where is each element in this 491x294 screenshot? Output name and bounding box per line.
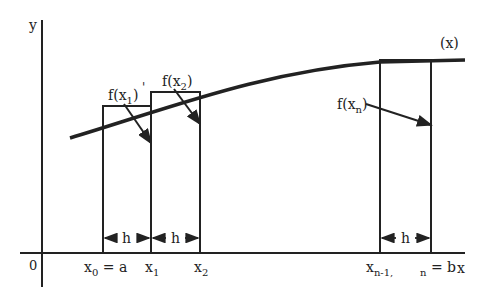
y-axis-label: y [28, 17, 37, 33]
svg-text:h: h [401, 230, 410, 246]
tick-x0: x0 = a [84, 259, 127, 278]
tick-x1: x1 [145, 259, 159, 278]
interval-h-n: h [382, 230, 429, 246]
interval-h-2: h [153, 230, 198, 246]
tick-xn: n = b [420, 259, 456, 278]
rectangle-2 [151, 92, 200, 253]
label-f-x1: f(x1) [108, 87, 138, 106]
arrow-f-x2 [174, 89, 200, 124]
arrow-f-xn [366, 104, 431, 125]
x-axis-label: x [457, 260, 465, 276]
stray-mark: ' [142, 81, 145, 95]
label-f-x2: f(x2) [162, 73, 192, 92]
svg-text:h: h [171, 230, 180, 246]
svg-text:h: h [122, 230, 131, 246]
tick-x2: x2 [194, 259, 208, 278]
arrow-f-x1 [124, 104, 151, 143]
interval-h-1: h [105, 230, 149, 246]
curve-label: (x) [440, 35, 459, 51]
integration-diagram: y x 0 (x) f(x1) ' f(x2) f(xn) h h h [0, 0, 491, 294]
origin-label: 0 [29, 258, 37, 273]
rectangle-n [380, 60, 431, 253]
tick-xn-1: xn-1, [366, 259, 393, 278]
label-f-xn: f(xn) [337, 96, 367, 115]
